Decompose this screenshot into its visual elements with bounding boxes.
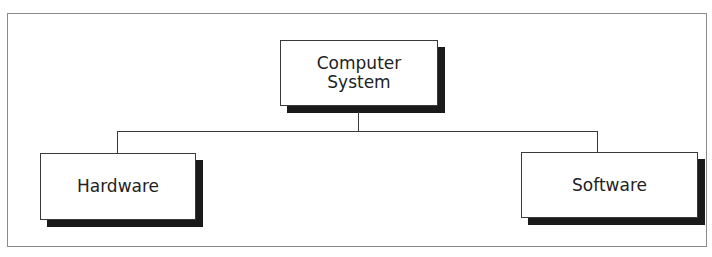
- node-hardware: Hardware: [40, 153, 196, 220]
- node-label-software: Software: [572, 176, 647, 195]
- node-software: Software: [521, 152, 698, 218]
- node-label-hardware: Hardware: [77, 177, 159, 196]
- connector-hardware-vertical: [117, 131, 118, 153]
- connector-root-vertical: [358, 112, 359, 132]
- connector-software-vertical: [597, 131, 598, 152]
- node-computer-system: Computer System: [280, 40, 438, 106]
- node-label-computer-system: Computer System: [317, 54, 402, 92]
- connector-horizontal: [117, 131, 598, 132]
